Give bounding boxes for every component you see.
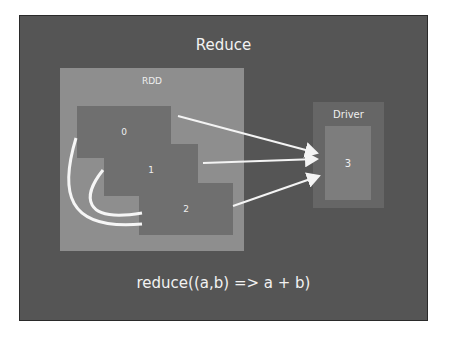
partition-2: 2 xyxy=(139,183,233,235)
driver-label: Driver xyxy=(313,109,384,120)
reduce-code: reduce((a,b) => a + b) xyxy=(20,274,427,292)
rdd-label: RDD xyxy=(60,76,244,86)
driver-result-value: 3 xyxy=(325,158,371,169)
slide: Reduce RDD 0 1 2 Driver 3 xyxy=(19,15,428,321)
driver-box: Driver 3 xyxy=(313,102,384,208)
partition-1-label: 1 xyxy=(104,165,198,175)
arrow-partition-2-to-driver xyxy=(233,176,319,206)
partition-0-label: 0 xyxy=(77,127,171,137)
driver-result-box: 3 xyxy=(325,126,371,200)
slide-title: Reduce xyxy=(20,36,427,54)
partition-2-label: 2 xyxy=(139,204,233,214)
